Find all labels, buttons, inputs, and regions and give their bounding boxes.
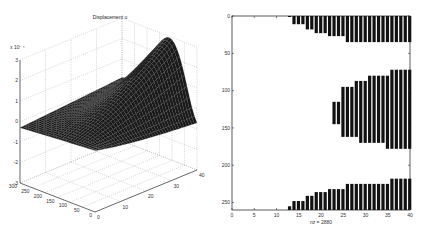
spy-x-tick-label: 25 [340,212,346,218]
spy-y-tick-label: 150 [222,125,231,131]
spy-mark [364,184,367,210]
spy-mark [341,16,344,36]
y-tick-label: 0 [89,212,92,218]
spy-mark [328,189,331,210]
spy-mark [341,87,344,137]
spy-mark [337,189,340,210]
spy-mark [373,184,376,210]
spy-mark [350,87,353,137]
y-tick-label: 250 [21,188,30,194]
spy-mark [399,16,402,42]
spy-mark [306,16,309,29]
spy-mark [395,179,398,210]
spy-y-tick-label: 250 [222,199,231,205]
spy-x-tick-label: 0 [231,212,234,218]
spy-mark [364,16,367,42]
spy-mark [310,16,313,29]
y-tick-label: 150 [46,198,55,204]
spy-x-tick-label: 40 [407,212,413,218]
spy-y-tick-label: 50 [224,50,230,56]
spy-mark [292,201,295,210]
x-tick-label: 40 [199,172,205,178]
spy-mark [346,184,349,210]
spy-mark [350,16,353,42]
spy-y-tick-label: 200 [222,162,231,168]
spy-mark [381,16,384,42]
x-tick-label: 10 [123,204,129,210]
spy-mark [288,16,291,17]
z-tick-label: 1 [15,98,18,104]
spy-x-tick-label: 10 [274,212,280,218]
spy-y-tick-label: 0 [227,13,230,19]
spy-mark [355,184,358,210]
figure: Displacement u x 10⁻⁴ 010203040050100150… [0,0,423,235]
spy-x-tick-label: 5 [253,212,256,218]
floor-grid-y [33,146,135,188]
spy-mark [390,16,393,42]
spy-mark [408,179,411,210]
spy-mark [373,16,376,42]
x-axis [95,170,197,212]
spy-x-tick-label: 15 [296,212,302,218]
spy-mark [337,16,340,36]
z-tick-label: 2 [15,77,18,83]
floor-grid-y [58,156,160,198]
spy-mark [381,184,384,210]
spy-mark [408,16,411,42]
spy-plot: 0510152025303540050100150200250 nz = 288… [222,13,413,225]
spy-mark [368,184,371,210]
x-tick-label: 0 [97,214,100,220]
surface-mesh [20,37,197,150]
spy-mark [377,16,380,42]
spy-mark [301,201,304,210]
spy-mark [315,192,318,210]
spy-mark [332,16,335,36]
spy-mark [337,102,340,124]
x-tick-label: 20 [148,193,154,199]
z-tick-label: -1 [14,139,19,145]
spy-mark [359,16,362,42]
spy-mark [319,192,322,210]
spy-mark [332,102,335,124]
spy-x-tick-label: 35 [385,212,391,218]
spy-mark [368,16,371,42]
spy-mark [404,16,407,42]
spy-mark [315,16,318,33]
spy-mark [386,184,389,210]
floor-grid-y [70,160,172,202]
spy-mark [404,179,407,210]
spy-mark [377,76,380,143]
spy-mark [364,81,367,143]
spy-mark [377,184,380,210]
spy-mark [301,16,304,24]
spy-mark [306,196,309,210]
spy-mark [386,16,389,42]
spy-mark [395,70,398,149]
spy-x-tick-label: 20 [318,212,324,218]
z-multiplier-label: x 10⁻⁴ [10,44,25,50]
spy-mark [292,16,295,24]
spy-marks [288,16,411,210]
spy-mark [328,16,331,36]
spy-mark [355,81,358,137]
spy-mark [359,81,362,143]
surface-title: Displacement u [93,14,128,20]
spy-mark [355,16,358,42]
y-tick-label: 200 [34,193,43,199]
spy-mark [332,189,335,210]
spy-mark [395,16,398,42]
spy-mark [373,76,376,143]
spy-mark [399,179,402,210]
spy-mark [404,70,407,149]
floor-grid-y [83,165,185,207]
x-tick-label: 30 [174,183,180,189]
z-tick-label: -2 [14,159,19,165]
spy-mark [350,184,353,210]
spy-mark [346,16,349,42]
spy-mark [341,189,344,210]
spy-mark [324,192,327,210]
z-tick-label: -3 [14,180,19,186]
spy-mark [288,206,291,210]
z-tick-label: 3 [15,57,18,63]
surface-plot: Displacement u x 10⁻⁴ 010203040050100150… [9,14,205,220]
